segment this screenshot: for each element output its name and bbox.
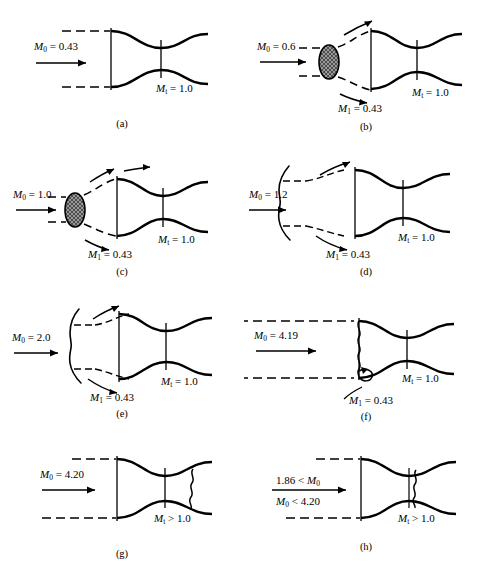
panel-c: M0 = 1.0 M1 = 0.43 Mt = 1.0 (c) [0, 140, 244, 282]
spillage-arrow-top [93, 306, 119, 319]
throat-mach-label: Mt = 1.0 [155, 82, 193, 96]
inlet-flow-arrow [36, 60, 86, 67]
inlet-mach-label: M0 = 2.0 [11, 331, 51, 345]
panel-caption: (d) [244, 266, 488, 277]
spillage-arrow-top [320, 162, 350, 175]
spillage-arrow-top [344, 21, 372, 35]
secondary-mach-label: M1 = 0.43 [337, 102, 382, 116]
throat-mach-label: Mt = 1.0 [397, 231, 435, 245]
inlet-mach-label: M0 = 4.20 [39, 468, 84, 482]
panel-b: M0 = 0.6 M1 = 0.43 Mt = 1.0 (b) [244, 0, 488, 142]
throat-mach-label: Mt = 1.0 [401, 372, 439, 386]
spill-streamline-top [338, 31, 370, 47]
panel-f: M0 = 4.19 M1 = 0.43 Mt = 1.0 (f) [244, 281, 488, 423]
bow-shock-curve [70, 309, 81, 383]
inlet-mach-label: M0 = 1.0 [12, 188, 52, 202]
secondary-mach-label: M1 = 0.43 [325, 248, 370, 262]
panel-caption: (a) [0, 118, 244, 129]
inlet-mach-label: M0 = 1.2 [248, 188, 287, 202]
figure-root: M0 = 0.43 Mt = 1.0 (a) [0, 0, 488, 567]
normal-shock-ellipse [319, 45, 339, 79]
nozzle-wall-upper [111, 31, 208, 48]
bow-shock-curve [279, 166, 290, 240]
inlet-flow-arrow [42, 487, 95, 494]
inlet-mach-label: M0 = 4.19 [253, 329, 298, 343]
inlet-flow-arrow [256, 348, 316, 355]
secondary-mach-label: M1 = 0.43 [89, 391, 134, 405]
inlet-mach-label: M0 = 0.43 [33, 40, 78, 54]
panel-caption: (c) [0, 266, 244, 277]
spill-streamline-bottom [84, 224, 116, 236]
inlet-flow-arrow [249, 207, 286, 214]
spillage-arrow-top [90, 169, 114, 182]
panel-caption: (h) [244, 541, 488, 552]
throat-mach-label: Mt = 1.0 [157, 233, 195, 247]
spill-streamline-bottom [338, 77, 370, 90]
throat-mach-label: Mt > 1.0 [397, 512, 435, 526]
panel-g: M0 = 4.20 Mt > 1.0 (g) [0, 422, 244, 564]
inlet-flow-arrow [272, 487, 346, 494]
spill-streamline-top [84, 179, 116, 195]
panel-caption: (e) [0, 408, 244, 419]
panel-e: M0 = 2.0 M1 = 0.43 Mt = 1.0 (e) [0, 281, 244, 423]
secondary-mach-label: M1 = 0.43 [348, 394, 393, 408]
panel-a: M0 = 0.43 Mt = 1.0 (a) [0, 0, 244, 142]
throat-mach-label: Mt = 1.0 [411, 86, 449, 100]
secondary-mach-label: M1 = 0.43 [87, 248, 132, 262]
throat-mach-label: Mt > 1.0 [153, 512, 191, 526]
shock-curl-arrowhead [361, 367, 368, 374]
inlet-mach-label: M0 = 0.6 [256, 40, 296, 54]
panel-h: 1.86 < M0 M0 < 4.20 Mt > 1.0 (h) [244, 422, 488, 564]
spill-streamline-top [95, 314, 129, 325]
inlet-flow-arrow [260, 59, 306, 66]
panel-d: M0 = 1.2 M1 = 0.43 Mt = 1.0 (d) [244, 140, 488, 282]
downstream-wavy-shock [190, 469, 194, 509]
inlet-mach-range-numerator: 1.86 < M0 [276, 474, 320, 488]
panel-caption: (f) [244, 411, 488, 422]
inlet-flow-arrow [14, 350, 58, 357]
spillage-arrow-upper-right [124, 164, 150, 171]
panel-caption: (b) [244, 121, 488, 132]
inlet-mach-range-denominator: M0 < 4.20 [275, 495, 320, 509]
panel-caption: (g) [0, 548, 244, 559]
spill-streamline-bottom [306, 226, 344, 236]
normal-shock-ellipse [65, 193, 85, 227]
inlet-flow-arrow [16, 207, 56, 214]
throat-mach-label: Mt = 1.0 [160, 375, 198, 389]
